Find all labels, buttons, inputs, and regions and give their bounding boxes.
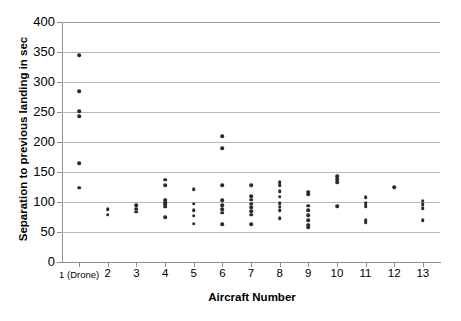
data-point <box>364 204 368 208</box>
data-point <box>221 222 225 226</box>
y-tick-label: 200 <box>9 135 55 148</box>
data-point <box>163 215 167 219</box>
x-tick-label: 13 <box>408 268 438 280</box>
x-tick-label: 2 <box>93 268 123 280</box>
x-tick-label: 11 <box>351 268 381 280</box>
data-point <box>392 185 396 189</box>
y-tick-label: 300 <box>9 75 55 88</box>
y-tick-label: 350 <box>9 45 55 58</box>
data-point <box>249 222 253 226</box>
data-point <box>77 161 81 165</box>
gridline <box>62 232 440 233</box>
y-tick-mark <box>57 112 62 113</box>
data-point <box>306 209 310 213</box>
data-point <box>135 210 139 214</box>
data-point <box>192 209 196 213</box>
data-point <box>192 188 196 192</box>
data-point <box>77 110 81 114</box>
x-tick-label: 10 <box>322 268 352 280</box>
data-point <box>335 204 339 208</box>
x-tick-label: 4 <box>150 268 180 280</box>
x-tick-label: 8 <box>265 268 295 280</box>
y-tick-mark <box>57 52 62 53</box>
scatter-chart: Separation to previous landing in sec 40… <box>0 0 461 321</box>
y-tick-mark <box>57 172 62 173</box>
data-point <box>163 183 167 187</box>
gridline <box>62 22 440 23</box>
x-axis-title: Aircraft Number <box>62 291 442 303</box>
y-tick-label: 250 <box>9 105 55 118</box>
x-tick-label: 9 <box>293 268 323 280</box>
data-point <box>77 186 81 190</box>
x-tick-label: 6 <box>207 268 237 280</box>
x-tick-label: 12 <box>379 268 409 280</box>
y-tick-label: 50 <box>9 225 55 238</box>
y-tick-label: 0 <box>9 255 55 268</box>
y-tick-label: 150 <box>9 165 55 178</box>
data-point <box>77 114 81 118</box>
data-point <box>364 221 368 225</box>
data-point <box>192 202 196 206</box>
data-point <box>278 195 282 199</box>
y-tick-mark <box>57 22 62 23</box>
data-point <box>77 89 81 93</box>
data-point <box>306 213 310 217</box>
data-point <box>106 207 110 211</box>
data-point <box>306 192 310 196</box>
data-point <box>421 218 425 222</box>
data-point <box>249 198 253 202</box>
data-point <box>278 216 282 220</box>
gridline <box>62 82 440 83</box>
data-point <box>192 214 196 218</box>
gridline <box>62 52 440 53</box>
data-point <box>306 225 310 229</box>
x-tick-mark <box>79 263 80 267</box>
data-point <box>364 195 368 199</box>
y-tick-label: 100 <box>9 195 55 208</box>
data-point <box>278 183 282 187</box>
gridline <box>62 142 440 143</box>
data-point <box>221 198 225 202</box>
x-tick-label: 3 <box>121 268 151 280</box>
data-point <box>221 183 225 187</box>
data-point <box>306 204 310 208</box>
data-point <box>249 213 253 217</box>
x-tick-label: 5 <box>179 268 209 280</box>
gridline <box>62 112 440 113</box>
data-point <box>163 205 167 209</box>
data-point <box>221 203 225 207</box>
x-tick-label: 7 <box>236 268 266 280</box>
y-tick-mark <box>57 202 62 203</box>
data-point <box>77 53 81 57</box>
data-point <box>221 211 225 215</box>
data-point <box>163 178 167 182</box>
y-tick-mark <box>57 232 62 233</box>
y-tick-mark <box>57 142 62 143</box>
data-point <box>421 206 425 210</box>
plot-area <box>62 22 440 262</box>
data-point <box>278 189 282 193</box>
data-point <box>306 218 310 222</box>
data-point <box>278 209 282 213</box>
data-point <box>192 222 196 226</box>
data-point <box>249 183 253 187</box>
data-point <box>335 180 339 184</box>
gridline <box>62 172 440 173</box>
data-point <box>221 134 225 138</box>
y-tick-mark <box>57 82 62 83</box>
data-point <box>221 146 225 150</box>
y-tick-mark <box>57 262 62 263</box>
y-tick-label: 400 <box>9 15 55 28</box>
data-point <box>106 213 110 217</box>
